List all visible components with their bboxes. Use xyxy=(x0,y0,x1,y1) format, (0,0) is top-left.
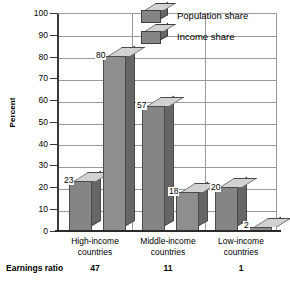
earnings-ratio-value-low-income: 1 xyxy=(211,263,271,273)
legend: Population share Income share xyxy=(133,6,275,48)
earnings-ratio-label: Earnings ratio xyxy=(6,263,63,273)
bar-population-high-income xyxy=(69,181,92,231)
bar-top-face xyxy=(108,47,145,56)
y-tick-label: 50 xyxy=(14,118,48,127)
x-category-line: countries xyxy=(55,247,135,258)
y-tick-label: 0 xyxy=(14,227,48,236)
y-tick-mark xyxy=(50,78,57,79)
x-category-label-low-income: Low-income countries xyxy=(201,236,281,257)
legend-swatch-income-share xyxy=(141,31,161,44)
y-tick-mark xyxy=(50,122,57,123)
bar-front-face xyxy=(103,56,126,231)
bar-value-label-income-middle: 18 xyxy=(168,187,179,196)
y-tick-mark xyxy=(50,209,57,210)
y-tick-label: 20 xyxy=(14,183,48,192)
y-tick-mark xyxy=(50,144,57,145)
bar-income-middle-income xyxy=(176,192,199,231)
bar-top-face xyxy=(220,178,257,187)
bar-front-face xyxy=(176,192,199,231)
earnings-ratio-value-high-income: 47 xyxy=(65,263,125,273)
y-tick-mark xyxy=(50,13,57,14)
bar-front-face xyxy=(215,187,238,231)
y-tick-mark xyxy=(50,187,57,188)
y-tick-label: 40 xyxy=(14,140,48,149)
y-tick-label: 30 xyxy=(14,161,48,170)
x-category-label-middle-income: Middle-income countries xyxy=(128,236,208,257)
bar-value-label-population-middle: 57 xyxy=(136,101,147,110)
swatch-front-face xyxy=(141,10,161,23)
swatch-top-face xyxy=(145,3,176,10)
bar-front-face xyxy=(69,181,92,231)
gridline xyxy=(59,80,276,81)
bar-value-label-population-high: 23 xyxy=(63,176,74,185)
y-axis-label: Percent xyxy=(8,83,17,143)
swatch-front-face xyxy=(141,31,161,44)
bar-side-face xyxy=(165,96,174,226)
gridline xyxy=(59,58,276,59)
y-tick-label: 10 xyxy=(14,205,48,214)
y-tick-mark xyxy=(50,165,57,166)
x-category-line: Low-income xyxy=(201,236,281,247)
x-category-line: High-income xyxy=(55,236,135,247)
legend-label: Population share xyxy=(177,10,248,21)
legend-item-income-share: Income share xyxy=(133,27,275,48)
x-category-label-high-income: High-income countries xyxy=(55,236,135,257)
bar-value-label-income-high: 80 xyxy=(95,51,106,60)
y-tick-mark xyxy=(50,100,57,101)
bar-value-label-population-low: 20 xyxy=(210,183,221,192)
y-tick-label: 70 xyxy=(14,74,48,83)
y-tick-mark xyxy=(50,35,57,36)
bar-income-high-income xyxy=(103,56,126,231)
x-axis-baseline xyxy=(55,230,281,232)
y-tick-label: 80 xyxy=(14,53,48,62)
x-category-line: countries xyxy=(201,247,281,258)
y-tick-label: 100 xyxy=(14,9,48,18)
bar-side-face xyxy=(126,46,135,226)
bar-chart: Percent 100 90 80 70 60 50 40 30 20 10 0 xyxy=(0,0,290,287)
bar-front-face xyxy=(142,106,165,231)
bar-top-face xyxy=(254,218,290,227)
bar-value-label-income-low: 2 xyxy=(243,221,250,230)
earnings-ratio-value-middle-income: 11 xyxy=(138,263,198,273)
legend-swatch-population-share xyxy=(141,10,161,23)
x-category-line: Middle-income xyxy=(128,236,208,247)
y-tick-mark xyxy=(50,57,57,58)
legend-label: Income share xyxy=(177,31,235,42)
bar-population-low-income xyxy=(215,187,238,231)
bar-population-middle-income xyxy=(142,106,165,231)
x-category-line: countries xyxy=(128,247,208,258)
y-tick-label: 60 xyxy=(14,96,48,105)
y-tick-label: 90 xyxy=(14,31,48,40)
